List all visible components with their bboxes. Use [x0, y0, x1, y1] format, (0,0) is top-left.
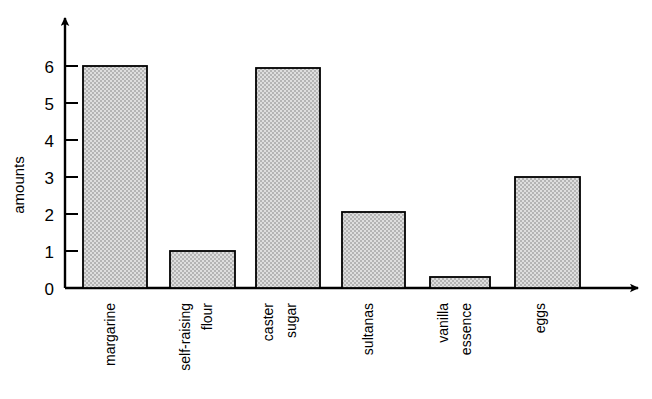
y-axis-tick-labels: 0 1 2 3 4 5 6: [45, 58, 54, 299]
bar-self-raising-flour: [170, 251, 235, 288]
bar-margarine: [83, 66, 147, 288]
bar-vanilla-essence: [430, 277, 490, 288]
y-axis-title: amounts: [10, 156, 27, 214]
chart-canvas: 0 1 2 3 4 5 6 amounts margarine self-rai…: [0, 0, 652, 399]
cat-label-flour: flour: [199, 303, 215, 331]
bar-sultanas: [342, 212, 405, 288]
cat-label-margarine: margarine: [102, 303, 118, 366]
x-axis-category-labels: margarine self-raising flour caster suga…: [102, 303, 548, 371]
y-tick-label-0: 0: [45, 280, 54, 299]
y-tick-label-2: 2: [45, 206, 54, 225]
bar-eggs: [515, 177, 580, 288]
y-tick-label-3: 3: [45, 169, 54, 188]
bar-chart: 0 1 2 3 4 5 6 amounts margarine self-rai…: [0, 0, 652, 399]
cat-label-vanilla: vanilla: [435, 303, 451, 343]
cat-label-essence: essence: [458, 303, 474, 355]
cat-label-caster: caster: [260, 303, 276, 341]
cat-label-eggs: eggs: [532, 303, 548, 333]
cat-label-self-raising: self-raising: [177, 303, 193, 371]
bar-caster-sugar: [256, 68, 320, 288]
cat-label-sugar: sugar: [283, 303, 299, 338]
y-tick-label-6: 6: [45, 58, 54, 77]
cat-label-sultanas: sultanas: [360, 303, 376, 355]
y-axis-ticks: [65, 66, 78, 288]
y-tick-label-5: 5: [45, 95, 54, 114]
y-tick-label-4: 4: [45, 132, 54, 151]
y-tick-label-1: 1: [45, 243, 54, 262]
bar-series: [83, 66, 580, 288]
